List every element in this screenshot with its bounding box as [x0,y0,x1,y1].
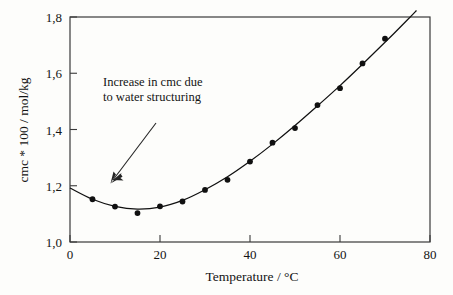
data-point [247,159,253,165]
data-point [112,204,118,210]
data-point [225,177,231,183]
data-point [202,187,208,193]
x-tick-label-0: 0 [67,247,74,262]
annotation-arrow [111,123,157,184]
data-point [292,125,298,131]
data-point-group [90,36,388,216]
data-point [157,203,163,209]
y-tick-label-1.2: 1,2 [46,179,62,194]
data-point [382,36,388,42]
x-tick-label-40: 40 [244,247,257,262]
y-axis-ticks [70,17,77,242]
chart-figure: 1,8 1,6 1,4 1,2 1,0 0 20 40 60 80 Temper… [0,0,453,295]
data-point [315,102,321,108]
data-point [360,61,366,67]
data-point [180,199,186,205]
data-point [337,85,343,91]
x-tick-label-80: 80 [424,247,437,262]
y-axis-title: cmc * 100 / mol/kg [16,77,31,182]
data-point [270,140,276,146]
annotation-line-1: Increase in cmc due [103,75,203,89]
y-tick-label-1.0: 1,0 [46,235,62,250]
y-tick-label-1.8: 1,8 [46,10,62,25]
annotation-line-2: to water structuring [103,90,202,104]
x-tick-label-20: 20 [154,247,167,262]
fitted-curve [70,11,417,210]
y-tick-label-1.4: 1,4 [46,123,63,138]
data-point [135,210,141,216]
y-tick-label-1.6: 1,6 [46,66,63,81]
x-axis-ticks [70,235,430,242]
x-tick-label-60: 60 [334,247,347,262]
data-point [90,196,96,202]
chart-canvas: 1,8 1,6 1,4 1,2 1,0 0 20 40 60 80 Temper… [0,0,453,295]
x-axis-title: Temperature / °C [206,269,299,284]
